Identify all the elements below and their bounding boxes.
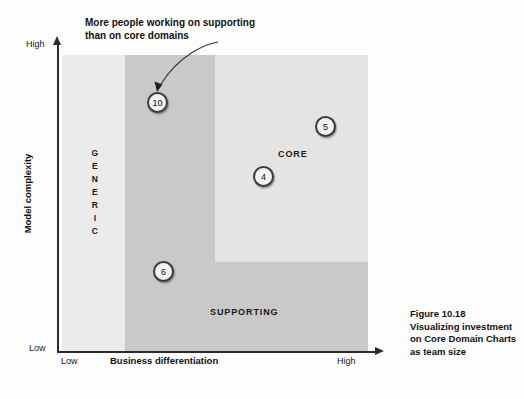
generic-letter-g: G <box>86 147 104 160</box>
data-bubble-5[interactable]: 5 <box>315 116 336 137</box>
x-axis-arrow-icon <box>375 347 384 355</box>
x-axis-title: Business differentiation <box>110 355 218 366</box>
x-axis-tick-high: High <box>337 356 356 366</box>
generic-letter-n: N <box>86 173 104 186</box>
data-bubble-4[interactable]: 4 <box>253 166 274 187</box>
region-label-supporting: SUPPORTING <box>210 307 279 317</box>
figure-caption: Figure 10.18 Visualizing investment on C… <box>410 308 522 358</box>
generic-letter-c: C <box>86 225 104 238</box>
y-axis-title: Model complexity <box>22 139 33 249</box>
figure-root: G E N E R I C CORE SUPPORTING 10 5 4 6 H… <box>0 0 524 399</box>
data-bubble-6[interactable]: 6 <box>153 261 174 282</box>
x-axis-tick-low: Low <box>61 356 78 366</box>
generic-letter-r: R <box>86 199 104 212</box>
generic-letter-e1: E <box>86 160 104 173</box>
y-axis-tick-low: Low <box>29 343 46 353</box>
region-label-core: CORE <box>278 149 308 159</box>
generic-letter-e2: E <box>86 186 104 199</box>
y-axis-arrow-icon <box>53 36 61 45</box>
x-axis-line <box>57 351 379 353</box>
callout-arrow-icon <box>140 30 240 100</box>
y-axis-tick-high: High <box>26 39 45 49</box>
y-axis-line <box>57 44 59 353</box>
region-label-generic: G E N E R I C <box>86 147 104 238</box>
generic-letter-i: I <box>86 212 104 225</box>
